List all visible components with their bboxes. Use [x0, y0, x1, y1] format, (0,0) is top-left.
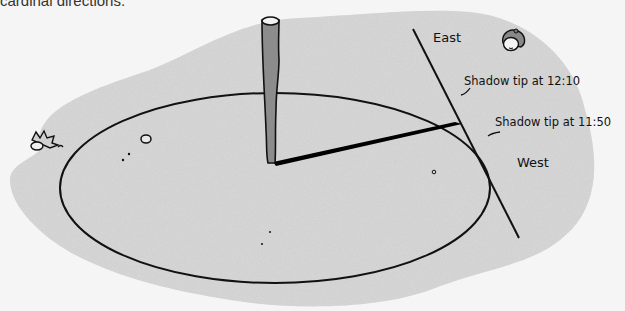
- pebble: [141, 135, 151, 143]
- pebble: [128, 153, 130, 155]
- label-shadow-tip-1150: Shadow tip at 11:50: [495, 115, 611, 129]
- label-west: West: [517, 155, 549, 170]
- peeking-character-head: [503, 29, 525, 51]
- shadow-stick-diagram: East Shadow tip at 12:10 Shadow tip at 1…: [0, 0, 625, 311]
- label-shadow-tip-1210: Shadow tip at 12:10: [464, 74, 580, 88]
- label-east: East: [433, 30, 461, 45]
- pebble: [261, 243, 263, 245]
- pebble: [122, 159, 124, 161]
- pebble: [269, 231, 271, 233]
